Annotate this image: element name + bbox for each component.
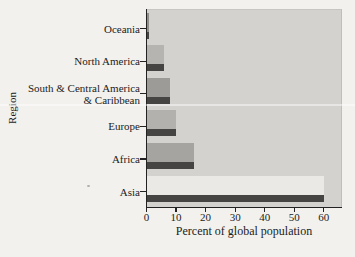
y-tick-mark <box>140 93 146 94</box>
y-tick-mark <box>140 126 146 127</box>
scan-artifact-streak <box>0 104 355 106</box>
bar-africa <box>147 143 194 169</box>
category-label-oceania: Oceania <box>4 15 140 43</box>
y-tick-mark <box>140 28 146 29</box>
bar-asia <box>147 176 324 202</box>
scan-artifact-speck <box>87 185 90 187</box>
bar-europe <box>147 110 176 136</box>
x-tick-label: 60 <box>309 212 339 223</box>
category-label-africa: Africa <box>4 145 140 173</box>
category-label-europe: Europe <box>4 112 140 140</box>
category-label-asia: Asia <box>4 178 140 206</box>
y-axis-title: Region <box>5 68 19 148</box>
category-label-north-america: North America <box>4 47 140 75</box>
y-tick-mark <box>140 191 146 192</box>
x-tick-label: 0 <box>132 212 162 223</box>
x-tick-label: 20 <box>191 212 221 223</box>
x-tick-label: 50 <box>279 212 309 223</box>
x-tick-label: 40 <box>250 212 280 223</box>
x-tick-label: 10 <box>161 212 191 223</box>
bar-south-central-america-caribbean <box>147 78 170 104</box>
y-tick-mark <box>140 61 146 62</box>
bar-chart-figure: OceaniaNorth AmericaSouth & Central Amer… <box>0 0 355 257</box>
x-tick-label: 30 <box>220 212 250 223</box>
bar-oceania <box>147 13 149 39</box>
y-tick-mark <box>140 158 146 159</box>
x-axis-title: Percent of global population <box>146 224 342 239</box>
bar-north-america <box>147 45 164 71</box>
